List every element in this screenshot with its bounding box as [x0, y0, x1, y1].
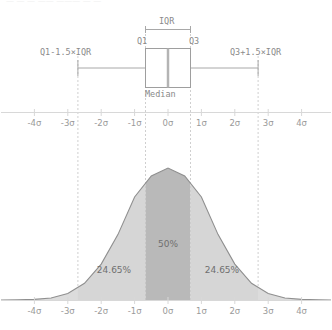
region-label-left-24: 24.65% [89, 266, 139, 275]
region-label-right-24: 24.65% [197, 266, 247, 275]
axis-bottom-tick-3: 3σ [258, 307, 278, 316]
q3-label: Q3 [189, 37, 199, 46]
axis-bottom-tick-0: 0σ [158, 307, 178, 316]
lower-fence-label: Q1-1.5×IQR [40, 48, 91, 57]
axis-middle-tick-3: 3σ [258, 119, 278, 128]
axis-middle-tick--3: -3σ [58, 119, 78, 128]
axis-bottom-tick--2: -2σ [91, 307, 111, 316]
axis-middle-tick--1: -1σ [125, 119, 145, 128]
figure-canvas: — — — —— ——— — — [0, 0, 332, 330]
upper-fence-label: Q3+1.5×IQR [230, 48, 281, 57]
axis-middle-tick--4: -4σ [24, 119, 44, 128]
median-label: Median [145, 90, 176, 99]
curve-shaded-regions [1, 168, 331, 300]
axis-middle [1, 109, 331, 116]
iqr-bracket [146, 26, 191, 33]
region-label-center-50: 50% [150, 240, 186, 249]
axis-middle-tick-0: 0σ [158, 119, 178, 128]
axis-middle-tick--2: -2σ [91, 119, 111, 128]
iqr-label: IQR [159, 17, 174, 26]
axis-bottom-tick--1: -1σ [125, 307, 145, 316]
axis-middle-tick-2: 2σ [225, 119, 245, 128]
axis-bottom-tick--4: -4σ [24, 307, 44, 316]
axis-middle-tick-1: 1σ [191, 119, 211, 128]
axis-bottom-tick-4: 4σ [292, 307, 312, 316]
axis-bottom-tick--3: -3σ [58, 307, 78, 316]
q1-label: Q1 [137, 37, 147, 46]
curve-band-center-fill [1, 168, 331, 300]
axis-bottom-tick-2: 2σ [225, 307, 245, 316]
axis-bottom-tick-1: 1σ [191, 307, 211, 316]
axis-middle-tick-4: 4σ [292, 119, 312, 128]
